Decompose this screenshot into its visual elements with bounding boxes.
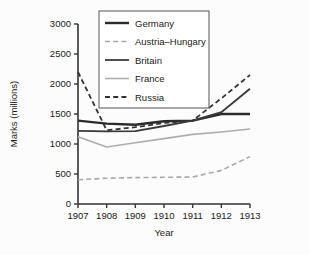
x-axis-tick-labels: 1907190819091910191119121913 xyxy=(67,210,260,221)
y-tick-label: 2500 xyxy=(50,48,71,59)
x-tick-label: 1910 xyxy=(153,210,174,221)
x-tick-label: 1907 xyxy=(67,210,88,221)
y-tick-label: 1500 xyxy=(50,108,71,119)
legend-label-britain: Britain xyxy=(135,55,162,66)
chart-figure: 050010001500200025003000 190719081909191… xyxy=(0,0,309,255)
y-tick-label: 500 xyxy=(55,168,71,179)
legend-label-russia: Russia xyxy=(135,92,165,103)
legend-label-austria-hungary: Austria–Hungary xyxy=(135,36,206,47)
y-tick-label: 3000 xyxy=(50,18,71,29)
series-line-germany xyxy=(78,114,250,125)
y-axis-title: Marks (millions) xyxy=(8,81,19,148)
x-tick-label: 1912 xyxy=(211,210,232,221)
x-tick-label: 1913 xyxy=(239,210,260,221)
y-tick-label: 1000 xyxy=(50,138,71,149)
x-axis-title: Year xyxy=(154,227,173,238)
series-line-austria-hungary xyxy=(78,157,250,180)
x-tick-label: 1911 xyxy=(182,210,202,221)
y-tick-label: 2000 xyxy=(50,78,71,89)
line-chart: 050010001500200025003000 190719081909191… xyxy=(0,0,309,255)
legend-label-france: France xyxy=(135,73,165,84)
x-tick-label: 1908 xyxy=(96,210,117,221)
y-tick-label: 0 xyxy=(66,198,71,209)
legend-label-germany: Germany xyxy=(135,18,174,29)
y-axis-tick-labels: 050010001500200025003000 xyxy=(50,18,71,209)
chart-legend: GermanyAustria–HungaryBritainFranceRussi… xyxy=(99,11,209,108)
x-tick-label: 1909 xyxy=(125,210,146,221)
